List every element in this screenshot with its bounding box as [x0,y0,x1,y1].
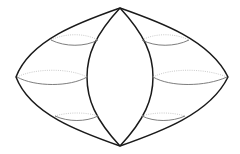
right-upper-front-curve [142,40,189,45]
right-lower-back-curve [142,113,185,116]
lens-surface-diagram [0,0,240,154]
right-lower-front-curve [142,116,185,121]
right-middle-front-curve [153,77,227,85]
right-upper-back-curve [142,35,189,40]
left-lower-front-curve [55,116,98,121]
inner-lens-left-edge [87,8,120,146]
left-middle-front-curve [17,77,87,85]
inner-lens-right-edge [120,8,153,146]
right-middle-back-curve [153,70,227,77]
left-middle-back-curve [17,70,87,77]
outer-outline [16,8,228,146]
left-upper-back-curve [51,35,98,40]
left-lower-back-curve [55,113,98,116]
left-upper-front-curve [51,40,98,45]
